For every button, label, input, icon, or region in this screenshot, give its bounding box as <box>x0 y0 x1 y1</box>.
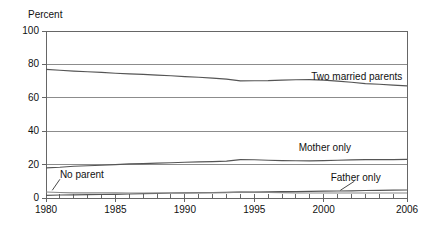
x-tick-label-1980: 1980 <box>26 205 66 215</box>
chart-plot-area <box>0 0 434 234</box>
y-tick-label-80: 80 <box>13 59 39 69</box>
x-tick-label-1990: 1990 <box>165 205 205 215</box>
x-tick-label-2006: 2006 <box>387 205 427 215</box>
x-tick-label-1985: 1985 <box>95 205 135 215</box>
y-tick-label-60: 60 <box>13 93 39 103</box>
series-label-two-married-parents: Two married parents <box>311 71 402 82</box>
y-tick-label-20: 20 <box>13 160 39 170</box>
y-tick-label-100: 100 <box>13 26 39 36</box>
x-axis-major-ticks <box>46 198 407 202</box>
y-axis-ticks <box>42 31 46 198</box>
x-tick-label-2000: 2000 <box>304 205 344 215</box>
series-label-mother-only: Mother only <box>299 142 351 153</box>
x-tick-label-1995: 1995 <box>234 205 274 215</box>
series-label-no-parent: No parent <box>60 169 104 180</box>
series-label-father-only: Father only <box>331 172 381 183</box>
y-tick-label-40: 40 <box>13 126 39 136</box>
chart-container: Percent 020406080100 1980198519901995200… <box>0 0 434 234</box>
y-tick-label-0: 0 <box>13 193 39 203</box>
annotation-leader-lines <box>52 179 354 190</box>
